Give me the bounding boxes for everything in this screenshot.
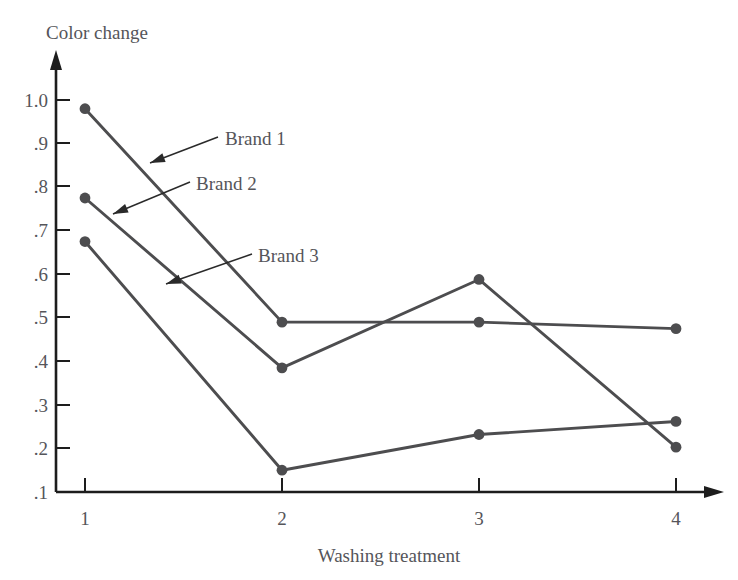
annotation-1: Brand 1 [150, 128, 286, 163]
data-point-marker [277, 317, 288, 328]
data-point-marker [80, 236, 91, 247]
x-axis [56, 486, 724, 498]
y-tick-label: .7 [34, 220, 48, 241]
series-label: Brand 2 [196, 173, 257, 194]
x-tick-label: 3 [474, 508, 484, 529]
data-point-marker [277, 465, 288, 476]
y-tick-label: .6 [34, 264, 48, 285]
data-point-marker [277, 362, 288, 373]
data-point-marker [671, 442, 682, 453]
x-tick-label: 2 [277, 508, 287, 529]
data-point-marker [474, 274, 485, 285]
annotation-arrowhead-icon [150, 153, 166, 163]
annotation-layer: Brand 1Brand 2Brand 3 [113, 128, 319, 284]
x-tick-label: 4 [671, 508, 681, 529]
y-tick-label: 1.0 [24, 90, 48, 111]
y-tick-marks [56, 100, 70, 448]
y-tick-label: .8 [34, 176, 48, 197]
series-layer [80, 103, 682, 475]
line-chart: 1.0 .9 .8 .7 .6 .5 .4 .3 .2 .1 1 2 3 4 C… [0, 0, 738, 580]
x-tick-marks [85, 478, 676, 492]
x-tick-label: 1 [80, 508, 90, 529]
annotation-2: Brand 2 [113, 173, 257, 214]
y-tick-label: .3 [34, 395, 48, 416]
data-point-marker [474, 317, 485, 328]
series-label: Brand 3 [258, 245, 319, 266]
series-line [85, 198, 676, 447]
y-tick-label: .9 [34, 133, 48, 154]
y-tick-label: .1 [34, 482, 48, 503]
y-tick-label: .2 [34, 438, 48, 459]
y-axis [50, 50, 62, 492]
y-axis-arrowhead [50, 50, 62, 70]
y-tick-label: .4 [34, 351, 49, 372]
data-point-marker [671, 323, 682, 334]
x-axis-arrowhead [704, 486, 724, 498]
series-2 [80, 193, 682, 453]
x-axis-title: Washing treatment [318, 545, 461, 566]
chart-canvas: 1.0 .9 .8 .7 .6 .5 .4 .3 .2 .1 1 2 3 4 C… [0, 0, 738, 580]
series-label: Brand 1 [225, 128, 286, 149]
data-point-marker [80, 103, 91, 114]
x-tick-labels: 1 2 3 4 [80, 508, 681, 529]
data-point-marker [80, 193, 91, 204]
data-point-marker [474, 429, 485, 440]
y-tick-labels: 1.0 .9 .8 .7 .6 .5 .4 .3 .2 .1 [24, 90, 48, 503]
y-axis-title: Color change [46, 22, 148, 43]
data-point-marker [671, 416, 682, 427]
series-line [85, 109, 676, 329]
series-1 [80, 103, 682, 334]
y-tick-label: .5 [34, 307, 48, 328]
annotation-arrowhead-icon [113, 204, 129, 214]
